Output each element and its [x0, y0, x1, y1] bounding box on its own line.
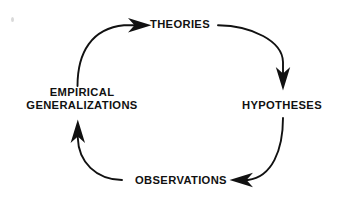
observations-text: OBSERVATIONS [135, 174, 227, 186]
node-label-hypotheses: HYPOTHESES [230, 99, 334, 112]
empirical-text-line1: EMPIRICAL [14, 86, 150, 99]
edge-generalizations-to-theories [78, 25, 143, 86]
edge-hypotheses-to-observations [240, 118, 283, 180]
hypotheses-text: HYPOTHESES [242, 99, 322, 111]
scan-speck [11, 17, 14, 22]
empirical-text-line2: GENERALIZATIONS [14, 99, 150, 112]
edge-observations-to-generalizations [78, 132, 122, 180]
theories-text: THEORIES [150, 18, 210, 30]
node-label-observations: OBSERVATIONS [126, 174, 236, 187]
edge-theories-to-hypotheses [218, 25, 283, 78]
node-label-theories: THEORIES [0, 18, 340, 31]
node-label-empirical-generalizations: EMPIRICAL GENERALIZATIONS [14, 86, 150, 112]
cycle-diagram: THEORIES HYPOTHESES OBSERVATIONS EMPIRIC… [0, 0, 340, 200]
